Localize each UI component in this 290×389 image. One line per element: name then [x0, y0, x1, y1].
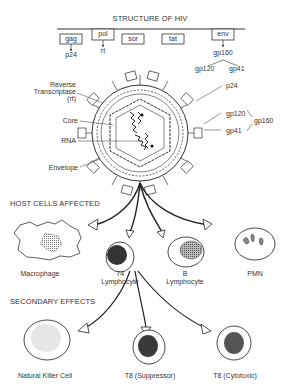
label-rna: RNA	[0, 137, 76, 145]
label-core: Core	[0, 117, 78, 125]
env-gp41: gp41	[229, 65, 245, 73]
heading-host-cells: HOST CELLS AFFECTED	[10, 200, 100, 208]
product-p24: p24	[60, 51, 82, 59]
host-t4-sub: Lymphocyte	[100, 278, 140, 286]
gene-env: env	[212, 30, 234, 38]
diagram-graphics	[0, 0, 290, 389]
host-pmn: PMN	[240, 270, 270, 278]
label-gp41: gp41	[226, 127, 242, 135]
label-envelope: Envelope	[0, 164, 78, 172]
hiv-virion	[78, 71, 202, 195]
host-t4: T4	[100, 270, 140, 278]
diagram-title: STRUCTURE OF HIV	[90, 15, 210, 23]
secondary-t8-suppressor: T8 (Suppressor)	[115, 372, 185, 380]
pmn-cell	[235, 228, 275, 260]
secondary-t8-cytotoxic: T8 (Cytotoxic)	[200, 372, 270, 380]
host-b: B	[165, 270, 205, 278]
host-macrophage: Macrophage	[15, 270, 65, 278]
gene-gag: gag	[60, 35, 82, 43]
label-rt: (rt)	[0, 95, 76, 103]
product-rt: rt	[92, 47, 114, 55]
host-b-sub: Lymphocyte	[165, 278, 205, 286]
hiv-diagram: STRUCTURE OF HIV gag pol sor tat env p24…	[0, 0, 290, 389]
label-gp160: gp160	[254, 117, 273, 125]
gene-sor: sor	[122, 35, 144, 43]
env-gp120: gp120	[195, 65, 214, 73]
product-gp160: gp160	[208, 49, 238, 57]
gene-pol: pol	[92, 30, 114, 38]
label-p24: p24	[226, 82, 238, 90]
label-gp120: gp120	[226, 110, 245, 118]
gene-tat: tat	[162, 35, 184, 43]
heading-secondary-effects: SECONDARY EFFECTS	[10, 298, 95, 306]
secondary-nk: Natural Killer Cell	[10, 372, 80, 380]
